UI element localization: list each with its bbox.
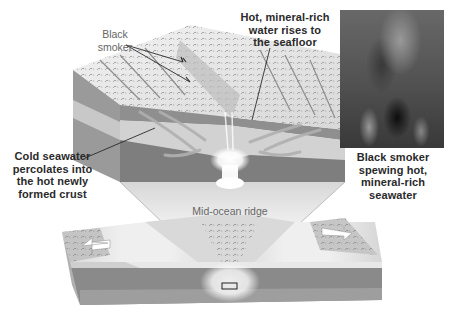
mid-ocean-ridge-label: Mid-ocean ridge: [180, 205, 280, 218]
hot-water-label: Hot, mineral-rich water rises to the sea…: [235, 11, 335, 49]
cold-seawater-label: Cold seawater percolates into the hot ne…: [10, 150, 95, 200]
black-smoker-photo: [340, 10, 444, 148]
photo-caption: Black smoker spewing hot, mineral-rich s…: [348, 151, 438, 201]
lower-ridge-block: [62, 215, 382, 305]
black-smoker-label: Black smoker: [90, 28, 140, 53]
